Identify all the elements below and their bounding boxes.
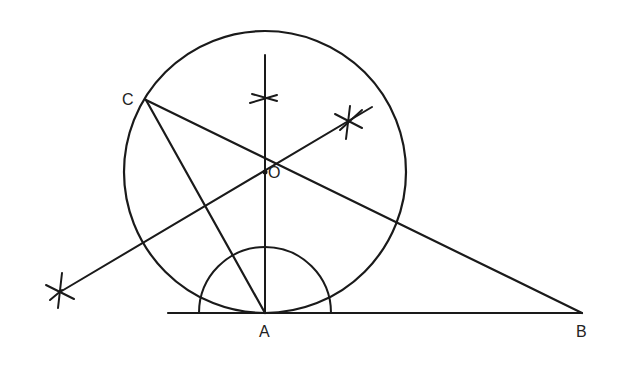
label-c: C bbox=[122, 91, 134, 109]
label-o: O bbox=[268, 164, 280, 182]
label-a: A bbox=[259, 323, 270, 341]
arc-mark-bisector-lower bbox=[46, 273, 74, 308]
label-b: B bbox=[576, 323, 587, 341]
segment-cb bbox=[146, 100, 582, 313]
arc-mark-perpendicular bbox=[250, 94, 277, 103]
segment-ca bbox=[146, 100, 265, 313]
arc-mark-bisector-upper bbox=[335, 106, 362, 139]
point-o-dot bbox=[263, 170, 268, 175]
geometry-diagram bbox=[0, 0, 617, 366]
